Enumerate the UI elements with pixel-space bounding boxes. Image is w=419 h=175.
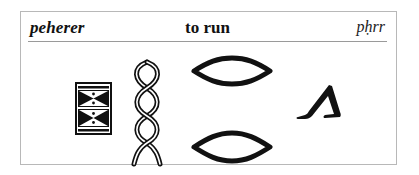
walking-legs-icon [297, 85, 341, 119]
mat-box-icon [76, 83, 111, 134]
hieroglyph-row [0, 0, 419, 175]
lozenge-bottom-icon [194, 133, 270, 161]
lozenge-top-icon [194, 58, 270, 84]
twisted-flax-icon [134, 62, 160, 164]
